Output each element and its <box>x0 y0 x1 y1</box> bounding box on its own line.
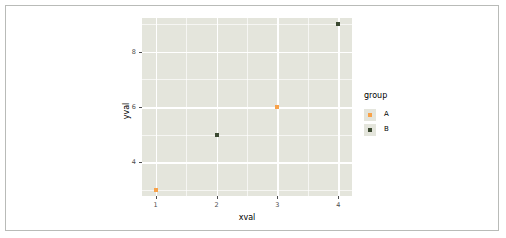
x-tick-label: 2 <box>214 202 218 209</box>
x-tick-label: 1 <box>154 202 158 209</box>
legend-key-swatch <box>364 109 376 121</box>
legend-key-point-icon <box>368 128 372 132</box>
gridline-major-horizontal <box>142 162 352 164</box>
legend-key-point-icon <box>368 113 372 117</box>
x-tick-mark <box>156 196 157 199</box>
legend-item-label: A <box>384 111 389 118</box>
x-axis-title: xval <box>142 214 352 222</box>
x-tick-label: 3 <box>275 202 279 209</box>
y-axis-title: yval <box>123 103 131 120</box>
x-tick-mark <box>217 196 218 199</box>
legend-item-a[interactable]: A <box>364 107 389 122</box>
x-tick-mark <box>338 196 339 199</box>
gridline-major-vertical <box>217 18 219 196</box>
y-tick-mark <box>139 107 142 108</box>
y-tick-label: 8 <box>112 49 136 56</box>
legend-item-b[interactable]: B <box>364 122 389 137</box>
data-point-b <box>336 22 340 26</box>
gridline-major-horizontal <box>142 107 352 109</box>
legend: group AB <box>364 92 389 137</box>
plot-card: 4681234 xval yval group AB <box>5 5 499 231</box>
y-tick-mark <box>139 162 142 163</box>
y-tick-mark <box>139 52 142 53</box>
gridline-major-vertical <box>156 18 158 196</box>
legend-title: group <box>364 92 389 100</box>
legend-items: AB <box>364 107 389 137</box>
data-point-a <box>275 105 279 109</box>
plot-panel <box>142 18 352 196</box>
y-tick-label: 4 <box>112 159 136 166</box>
legend-item-label: B <box>384 126 389 133</box>
data-point-b <box>215 133 219 137</box>
gridline-major-horizontal <box>142 52 352 54</box>
x-tick-mark <box>277 196 278 199</box>
legend-key-swatch <box>364 124 376 136</box>
ggplot-figure: 4681234 xval yval group AB <box>6 6 500 232</box>
x-tick-label: 4 <box>336 202 340 209</box>
gridline-major-vertical <box>338 18 340 196</box>
data-point-a <box>154 188 158 192</box>
